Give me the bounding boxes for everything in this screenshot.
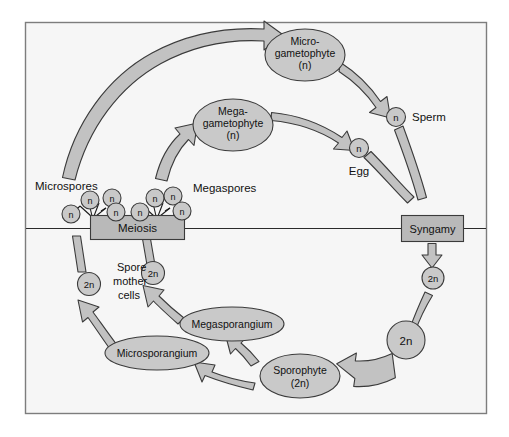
microsporangium-label: Microsporangium — [117, 347, 198, 359]
node-megagametophyte: Mega- gametophyte (n) — [193, 99, 273, 151]
egg-ploidy-label: n — [356, 143, 361, 154]
life-cycle-diagram: Micro- gametophyte (n) Mega- gametophyte… — [0, 0, 509, 437]
microspores-label: Microspores — [35, 180, 98, 192]
megaspores-label: Megaspores — [193, 182, 257, 194]
sperm-label: Sperm — [412, 111, 446, 123]
megaspore-circle-2: n — [146, 189, 164, 207]
microspore-circle-2: n — [81, 191, 99, 209]
spore-mother-cells-line2: mother — [113, 275, 148, 287]
zygote-small: 2n — [422, 267, 444, 289]
life-cycle-canvas: Micro- gametophyte (n) Mega- gametophyte… — [0, 0, 509, 437]
megagametophyte-line1: Mega- — [218, 105, 248, 117]
megaspore-label-2: n — [152, 194, 157, 204]
megasporangium-label: Megasporangium — [191, 318, 272, 330]
syngamy-label: Syngamy — [410, 223, 456, 235]
zygote-small-label: 2n — [428, 273, 439, 284]
microspore-circle-4: n — [107, 203, 125, 221]
microgametophyte-line1: Micro- — [290, 35, 320, 47]
sporophyte-line2: (2n) — [291, 377, 310, 389]
meiosis-label: Meiosis — [118, 222, 157, 234]
spore-mother-cells-line1: Spore — [117, 261, 146, 273]
microspore-label-2: n — [87, 196, 92, 206]
spore-mother-right-label: 2n — [148, 268, 159, 279]
spore-mother-cells-line3: cells — [118, 289, 141, 301]
sporophyte-line1: Sporophyte — [273, 364, 327, 376]
node-microsporangium: Microsporangium — [105, 336, 209, 370]
sperm-ploidy-label: n — [393, 112, 398, 123]
spore-mother-cell-left: 2n — [78, 273, 101, 296]
zygote-large-label: 2n — [400, 335, 413, 347]
node-sporophyte: Sporophyte (2n) — [260, 354, 340, 398]
megagametophyte-line2: gametophyte — [203, 117, 264, 129]
zygote-large: 2n — [387, 321, 425, 359]
spore-mother-left-label: 2n — [84, 279, 95, 290]
megaspore-circle-1: n — [131, 203, 149, 221]
megaspore-label-1: n — [137, 208, 142, 218]
node-syngamy: Syngamy — [402, 216, 464, 242]
megaspore-label-3: n — [170, 192, 175, 202]
microspore-label-3: n — [109, 194, 114, 204]
node-megasporangium: Megasporangium — [180, 307, 284, 341]
megaspore-label-4: n — [179, 207, 184, 217]
megagametophyte-line3: (n) — [227, 129, 240, 141]
microspore-label-1: n — [68, 210, 73, 220]
microspore-circle-1: n — [62, 205, 80, 223]
node-microgametophyte: Micro- gametophyte (n) — [265, 29, 345, 81]
microspore-label-4: n — [113, 208, 118, 218]
egg-label: Egg — [349, 165, 369, 177]
microgametophyte-line3: (n) — [299, 59, 312, 71]
microgametophyte-line2: gametophyte — [275, 47, 336, 59]
megaspore-circle-4: n — [173, 202, 191, 220]
